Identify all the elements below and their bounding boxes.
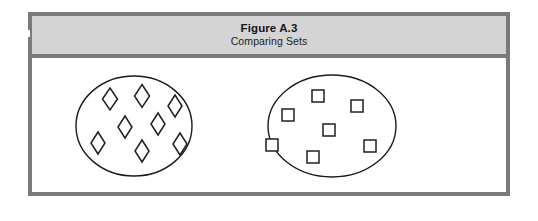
- set-element-square: [307, 151, 319, 163]
- set-element-square: [266, 139, 278, 151]
- left-set-ellipse: [76, 76, 192, 176]
- sets-diagram-svg: [32, 58, 506, 192]
- set-group-right: [266, 75, 396, 177]
- set-group-left: [76, 76, 192, 176]
- frame-edge-notch: [26, 30, 30, 37]
- set-element-square: [323, 124, 335, 136]
- figure-title: Figure A.3: [241, 22, 298, 35]
- figure-subtitle: Comparing Sets: [231, 36, 308, 48]
- set-element-square: [364, 140, 376, 152]
- sets-canvas: [32, 58, 506, 192]
- set-element-square: [351, 100, 363, 112]
- figure-frame: Figure A.3 Comparing Sets: [28, 12, 510, 196]
- set-element-square: [312, 90, 324, 102]
- figure-root: Figure A.3 Comparing Sets: [0, 0, 538, 221]
- figure-caption-band: Figure A.3 Comparing Sets: [32, 16, 506, 58]
- set-element-square: [282, 109, 294, 121]
